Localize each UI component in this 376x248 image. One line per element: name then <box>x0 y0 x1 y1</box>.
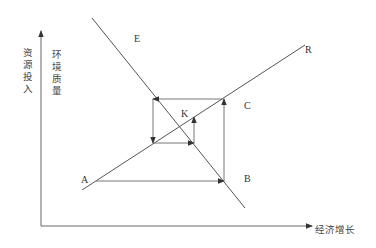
y-axis-label-resource-input: 资源投入 <box>22 47 34 95</box>
x-axis-label-economic-growth: 经济增长 <box>315 225 355 235</box>
point-label-r: R <box>305 45 312 55</box>
point-label-e: E <box>134 34 140 44</box>
cobweb-diagram <box>0 0 376 248</box>
y-axis-label-environment-quality: 环境质量 <box>51 49 63 97</box>
point-label-b: B <box>244 174 251 184</box>
point-label-c: C <box>244 101 251 111</box>
curve-e <box>92 18 245 208</box>
point-label-a: A <box>81 175 88 185</box>
point-label-k: K <box>181 109 188 119</box>
